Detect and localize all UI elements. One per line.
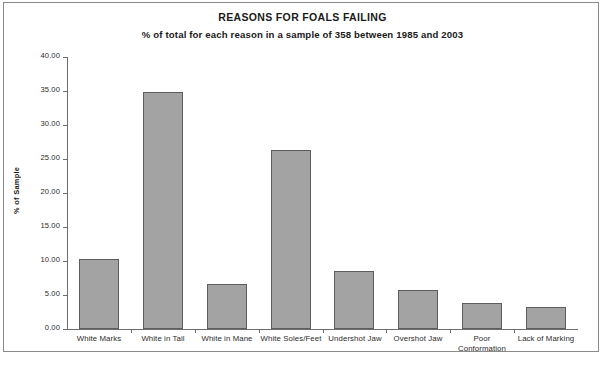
y-axis-tick-mark bbox=[63, 91, 67, 92]
x-axis-tick bbox=[323, 329, 324, 333]
y-axis-tick-label: 25.00 bbox=[40, 153, 60, 162]
chart-title: REASONS FOR FOALS FAILING bbox=[0, 11, 605, 24]
y-axis-tick-label: 35.00 bbox=[40, 85, 60, 94]
y-axis-tick-label: 30.00 bbox=[40, 119, 60, 128]
y-axis-tick: 40.00 bbox=[27, 57, 67, 58]
y-axis-line bbox=[67, 57, 68, 329]
x-axis-labels: White MarksWhite in TailWhite in ManeWhi… bbox=[67, 334, 578, 366]
y-axis-tick: 30.00 bbox=[27, 125, 67, 126]
y-axis-tick-label: 15.00 bbox=[40, 221, 60, 230]
y-axis-tick-mark bbox=[63, 295, 67, 296]
plot-area: 0.005.0010.0015.0020.0025.0030.0035.0040… bbox=[67, 57, 578, 329]
y-axis-tick-mark bbox=[63, 261, 67, 262]
bar bbox=[462, 303, 502, 329]
bar bbox=[334, 271, 374, 329]
x-axis-label: Overshot Jaw bbox=[386, 334, 450, 344]
y-axis-tick-label: 20.00 bbox=[40, 187, 60, 196]
title-block: REASONS FOR FOALS FAILING % of total for… bbox=[0, 11, 605, 41]
y-axis-tick-mark bbox=[63, 159, 67, 160]
bar bbox=[271, 150, 311, 329]
y-axis-tick-mark bbox=[63, 329, 67, 330]
y-axis-tick-label: 5.00 bbox=[45, 289, 60, 298]
y-axis-tick-label: 40.00 bbox=[40, 51, 60, 60]
x-axis-label: Lack of Marking bbox=[514, 334, 578, 344]
y-axis-tick: 20.00 bbox=[27, 193, 67, 194]
bar bbox=[398, 290, 438, 329]
x-axis-label: Undershot Jaw bbox=[323, 334, 387, 344]
x-axis-tick bbox=[259, 329, 260, 333]
y-axis-tick: 5.00 bbox=[27, 295, 67, 296]
x-axis-label: Poor Conformation bbox=[450, 334, 514, 354]
x-axis-tick bbox=[131, 329, 132, 333]
y-axis-tick: 15.00 bbox=[27, 227, 67, 228]
x-axis-label: White Soles/Feet bbox=[259, 334, 323, 344]
y-axis-tick-mark bbox=[63, 193, 67, 194]
x-axis-tick bbox=[514, 329, 515, 333]
bar bbox=[526, 307, 566, 329]
bar bbox=[79, 259, 119, 329]
y-axis-tick: 25.00 bbox=[27, 159, 67, 160]
y-axis-tick: 10.00 bbox=[27, 261, 67, 262]
y-axis-tick: 0.00 bbox=[27, 329, 67, 330]
x-axis-tick bbox=[195, 329, 196, 333]
x-axis-label: White in Mane bbox=[195, 334, 259, 344]
bar bbox=[207, 284, 247, 329]
x-axis-label: White in Tail bbox=[131, 334, 195, 344]
y-axis-tick-mark bbox=[63, 227, 67, 228]
y-axis-title: % of Sample bbox=[9, 145, 23, 235]
x-axis-tick bbox=[386, 329, 387, 333]
y-axis-tick-label: 0.00 bbox=[45, 323, 60, 332]
y-axis-tick-label: 10.00 bbox=[40, 255, 60, 264]
x-axis-label: White Marks bbox=[67, 334, 131, 344]
bottom-caption bbox=[5, 363, 265, 371]
x-axis-tick bbox=[450, 329, 451, 333]
y-axis-tick-mark bbox=[63, 125, 67, 126]
chart-subtitle: % of total for each reason in a sample o… bbox=[0, 28, 605, 41]
bar bbox=[143, 92, 183, 329]
y-axis-tick: 35.00 bbox=[27, 91, 67, 92]
y-axis-tick-mark bbox=[63, 57, 67, 58]
chart-figure: REASONS FOR FOALS FAILING % of total for… bbox=[0, 0, 605, 372]
